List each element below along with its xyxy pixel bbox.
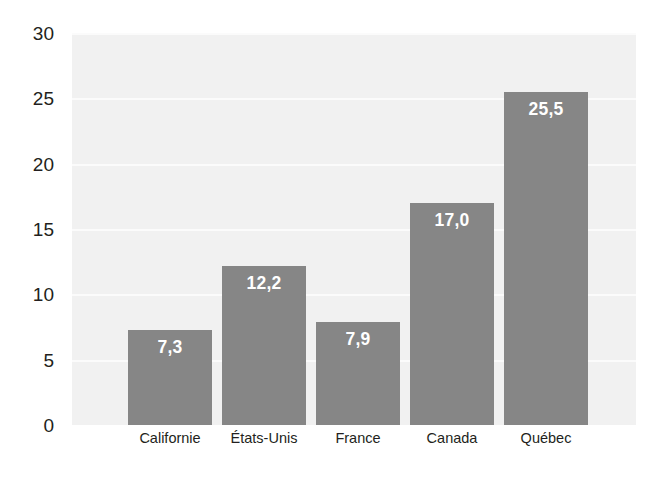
x-axis: Californie États-Unis France Canada Québ… — [72, 431, 636, 461]
y-axis-tick-label: 5 — [43, 350, 54, 369]
x-axis-tick-label: Canada — [427, 431, 478, 446]
bar[interactable]: 17,0 — [410, 203, 494, 425]
bar[interactable]: 7,3 — [128, 330, 212, 425]
bar[interactable]: 25,5 — [504, 92, 588, 425]
bar[interactable]: 12,2 — [222, 266, 306, 425]
y-axis-tick-label: 15 — [33, 220, 54, 239]
bar-value-label: 7,9 — [316, 331, 400, 349]
bar-value-label: 7,3 — [128, 339, 212, 357]
plot-area: 7,3 12,2 7,9 17,0 25,5 — [72, 33, 636, 425]
y-axis-tick-label: 20 — [33, 154, 54, 173]
bar[interactable]: 7,9 — [316, 322, 400, 425]
y-axis-tick-label: 10 — [33, 285, 54, 304]
x-axis-tick-label: Californie — [139, 431, 200, 446]
bar-chart: 30 25 20 15 10 5 0 7,3 12,2 7,9 — [0, 0, 669, 484]
x-axis-tick-label: États-Unis — [231, 431, 298, 446]
bar-value-label: 12,2 — [222, 275, 306, 293]
y-axis-tick-label: 25 — [33, 89, 54, 108]
bar-value-label: 17,0 — [410, 212, 494, 230]
bars-layer: 7,3 12,2 7,9 17,0 25,5 — [72, 33, 636, 425]
x-axis-tick-label: France — [335, 431, 380, 446]
y-axis-tick-label: 0 — [43, 416, 54, 435]
y-axis: 30 25 20 15 10 5 0 — [0, 33, 64, 425]
bar-value-label: 25,5 — [504, 101, 588, 119]
y-axis-tick-label: 30 — [33, 24, 54, 43]
x-axis-tick-label: Québec — [521, 431, 572, 446]
